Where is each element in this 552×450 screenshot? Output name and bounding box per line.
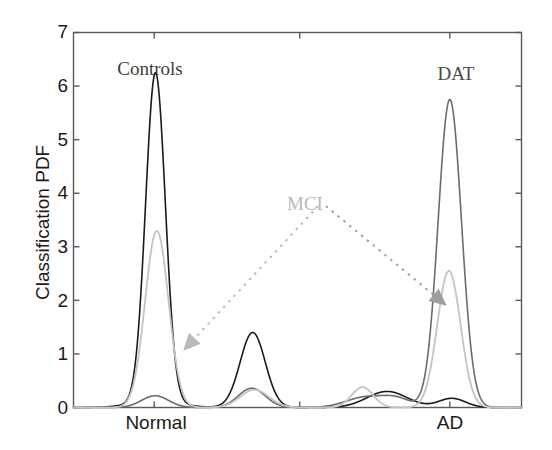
leader-lines (183, 207, 446, 351)
y-tick-label-3: 3 (44, 236, 68, 258)
series-lines (74, 73, 522, 408)
axis-ticks (74, 33, 522, 408)
y-tick-label-6: 6 (44, 75, 68, 97)
y-tick-label-2: 2 (44, 290, 68, 312)
chart-figure: Classification PDF 0 1 2 3 4 5 6 7 Norma… (0, 0, 552, 450)
annotation-dat: DAT (438, 63, 475, 85)
y-tick-label-4: 4 (44, 182, 68, 204)
y-tick-label-7: 7 (44, 21, 68, 43)
annotation-mci: MCI (287, 193, 323, 215)
y-tick-label-1: 1 (44, 343, 68, 365)
x-tick-label-ad: AD (437, 412, 463, 434)
axes-frame (74, 33, 522, 408)
x-tick-label-normal: Normal (125, 412, 186, 434)
y-axis-title: Classification PDF (32, 145, 54, 300)
y-tick-label-5: 5 (44, 129, 68, 151)
y-tick-label-0: 0 (44, 397, 68, 419)
annotation-controls: Controls (117, 58, 182, 80)
